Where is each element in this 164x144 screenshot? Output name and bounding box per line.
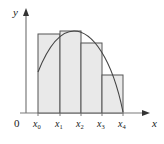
tick-label-x1: x1 bbox=[55, 119, 63, 129]
x-axis-arrowhead bbox=[142, 110, 150, 116]
tick-label-x2: x2 bbox=[76, 119, 84, 129]
tick-label-x4: x4 bbox=[118, 119, 126, 129]
integral-riemann-sum-figure: y x 0 x0 x1 x2 x3 x4 bbox=[0, 0, 164, 144]
y-axis-arrowhead bbox=[23, 8, 29, 16]
origin-label: 0 bbox=[14, 118, 20, 129]
bar-1 bbox=[38, 34, 60, 113]
x-axis-label: x bbox=[152, 118, 157, 129]
tick-label-x3: x3 bbox=[97, 119, 105, 129]
y-axis bbox=[23, 8, 29, 113]
riemann-rectangles bbox=[38, 31, 123, 113]
bar-3 bbox=[81, 43, 102, 113]
bar-4 bbox=[102, 75, 123, 113]
y-axis-label: y bbox=[13, 7, 18, 18]
bar-2 bbox=[60, 31, 81, 113]
tick-label-x0: x0 bbox=[33, 119, 41, 129]
